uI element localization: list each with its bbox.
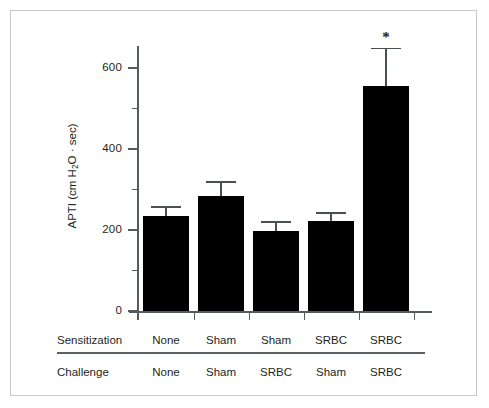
table-row-label-sensitization: Sensitization [57, 334, 122, 346]
table-cell-r1-c0: None [138, 366, 194, 378]
condition-table: Sensitization Challenge NoneShamShamSRBC… [0, 0, 489, 408]
table-cell-r1-c4: SRBC [358, 366, 414, 378]
table-cell-r0-c0: None [138, 334, 194, 346]
table-cell-r1-c2: SRBC [248, 366, 304, 378]
figure-root: APTI (cm H2O · sec) 0200400600 * Sensiti… [0, 0, 489, 408]
table-rule [57, 352, 425, 354]
table-cell-r0-c1: Sham [193, 334, 249, 346]
table-cell-r0-c4: SRBC [358, 334, 414, 346]
table-cell-r1-c1: Sham [193, 366, 249, 378]
table-cell-r0-c2: Sham [248, 334, 304, 346]
table-row-label-challenge: Challenge [57, 366, 109, 378]
table-cell-r0-c3: SRBC [303, 334, 359, 346]
table-cell-r1-c3: Sham [303, 366, 359, 378]
